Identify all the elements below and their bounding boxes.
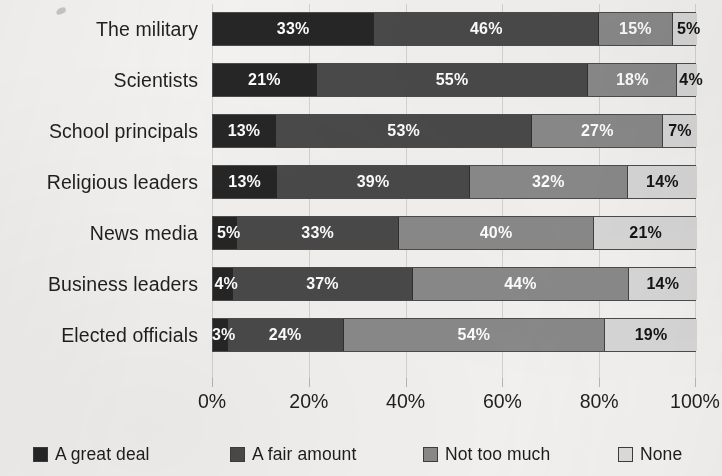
bar-segment: 4% bbox=[677, 64, 697, 96]
bar-segment: 14% bbox=[629, 268, 697, 300]
bar-segment: 27% bbox=[532, 115, 663, 147]
bar-segment-value: 21% bbox=[629, 224, 662, 242]
x-tick-mark bbox=[695, 378, 696, 387]
category-label: Scientists bbox=[114, 63, 198, 97]
bar-segment: 3% bbox=[213, 319, 228, 351]
x-tick-mark bbox=[599, 378, 600, 387]
bar-segment-value: 33% bbox=[301, 224, 334, 242]
bar-segment-value: 37% bbox=[306, 275, 339, 293]
category-label: The military bbox=[96, 12, 198, 46]
bar-segment: 32% bbox=[470, 166, 628, 198]
scan-artifact-speck bbox=[55, 6, 67, 15]
x-axis-ticks: 0%20%40%60%80%100% bbox=[212, 378, 696, 418]
bar-segment-value: 24% bbox=[269, 326, 302, 344]
stacked-bar: 3%24%54%19% bbox=[212, 318, 696, 352]
plot-area: The military33%46%15%5%Scientists21%55%1… bbox=[212, 4, 696, 378]
bar-segment-value: 33% bbox=[277, 20, 310, 38]
bar-segment-value: 32% bbox=[532, 173, 565, 191]
stacked-bar: 4%37%44%14% bbox=[212, 267, 696, 301]
legend-label: Not too much bbox=[445, 444, 550, 465]
bar-segment: 37% bbox=[233, 268, 414, 300]
bar-segment: 14% bbox=[628, 166, 697, 198]
bar-segment-value: 14% bbox=[646, 275, 679, 293]
bar-segment-value: 53% bbox=[387, 122, 420, 140]
x-tick-label: 20% bbox=[289, 390, 328, 413]
bar-segment: 40% bbox=[399, 217, 595, 249]
x-tick-mark bbox=[502, 378, 503, 387]
bar-segment-value: 15% bbox=[619, 20, 652, 38]
bar-row: School principals13%53%27%7% bbox=[212, 114, 696, 148]
bar-row: Scientists21%55%18%4% bbox=[212, 63, 696, 97]
bar-segment-value: 18% bbox=[616, 71, 649, 89]
legend-swatch-icon bbox=[423, 447, 438, 462]
bar-segment-value: 7% bbox=[668, 122, 692, 140]
bar-segment: 55% bbox=[317, 64, 589, 96]
bar-segment: 5% bbox=[673, 13, 697, 45]
x-tick-label: 80% bbox=[580, 390, 619, 413]
bar-segment: 13% bbox=[213, 115, 276, 147]
bar-segment: 4% bbox=[213, 268, 233, 300]
bar-segment: 44% bbox=[413, 268, 628, 300]
category-label: Business leaders bbox=[48, 267, 198, 301]
bar-segment: 33% bbox=[213, 13, 374, 45]
legend-swatch-icon bbox=[618, 447, 633, 462]
category-label: Religious leaders bbox=[47, 165, 198, 199]
category-label: School principals bbox=[49, 114, 198, 148]
bar-segment: 21% bbox=[594, 217, 697, 249]
bar-segment: 54% bbox=[344, 319, 605, 351]
stacked-bar: 5%33%40%21% bbox=[212, 216, 696, 250]
legend-swatch-icon bbox=[230, 447, 245, 462]
bar-segment-value: 5% bbox=[677, 20, 701, 38]
bar-segment-value: 21% bbox=[248, 71, 281, 89]
legend-label: A great deal bbox=[55, 444, 150, 465]
bar-segment: 39% bbox=[277, 166, 470, 198]
bar-segment: 7% bbox=[663, 115, 697, 147]
bar-row: Elected officials3%24%54%19% bbox=[212, 318, 696, 352]
bar-segment-value: 40% bbox=[480, 224, 513, 242]
legend-swatch-icon bbox=[33, 447, 48, 462]
stacked-bar: 21%55%18%4% bbox=[212, 63, 696, 97]
bar-segment-value: 4% bbox=[215, 275, 239, 293]
legend-item[interactable]: A fair amount bbox=[230, 440, 356, 468]
bar-segment: 13% bbox=[213, 166, 277, 198]
bar-segment-value: 4% bbox=[679, 71, 703, 89]
x-axis: 0%20%40%60%80%100% bbox=[212, 378, 696, 418]
bar-segment-value: 13% bbox=[228, 122, 261, 140]
x-tick-label: 0% bbox=[198, 390, 226, 413]
x-tick-label: 100% bbox=[670, 390, 720, 413]
category-label: Elected officials bbox=[61, 318, 198, 352]
stacked-bar: 33%46%15%5% bbox=[212, 12, 696, 46]
x-tick-mark bbox=[212, 378, 213, 387]
bar-segment: 18% bbox=[588, 64, 677, 96]
bar-segment: 19% bbox=[605, 319, 697, 351]
bar-segment-value: 27% bbox=[581, 122, 614, 140]
bar-segment-value: 46% bbox=[470, 20, 503, 38]
stacked-bar-chart: The military33%46%15%5%Scientists21%55%1… bbox=[0, 0, 722, 476]
legend-label: A fair amount bbox=[252, 444, 356, 465]
stacked-bar: 13%39%32%14% bbox=[212, 165, 696, 199]
bar-row: Religious leaders13%39%32%14% bbox=[212, 165, 696, 199]
x-tick-mark bbox=[309, 378, 310, 387]
bar-row: News media5%33%40%21% bbox=[212, 216, 696, 250]
x-tick-label: 40% bbox=[386, 390, 425, 413]
legend-item[interactable]: None bbox=[618, 440, 682, 468]
bar-segment: 15% bbox=[599, 13, 672, 45]
bar-segment: 24% bbox=[228, 319, 344, 351]
bar-segment-value: 54% bbox=[458, 326, 491, 344]
category-label: News media bbox=[90, 216, 198, 250]
legend-item[interactable]: Not too much bbox=[423, 440, 550, 468]
legend-item[interactable]: A great deal bbox=[33, 440, 150, 468]
bar-segment-value: 55% bbox=[436, 71, 469, 89]
bar-segment-value: 5% bbox=[217, 224, 241, 242]
chart-legend: A great dealA fair amountNot too muchNon… bbox=[0, 440, 722, 472]
bar-segment: 46% bbox=[374, 13, 599, 45]
bar-row: Business leaders4%37%44%14% bbox=[212, 267, 696, 301]
bar-segment-value: 13% bbox=[228, 173, 261, 191]
bar-segment: 53% bbox=[276, 115, 533, 147]
legend-label: None bbox=[640, 444, 682, 465]
bar-segment-value: 3% bbox=[212, 326, 236, 344]
bar-segment-value: 39% bbox=[357, 173, 390, 191]
bar-segment-value: 14% bbox=[646, 173, 679, 191]
bar-segment-value: 44% bbox=[504, 275, 537, 293]
x-tick-mark bbox=[406, 378, 407, 387]
